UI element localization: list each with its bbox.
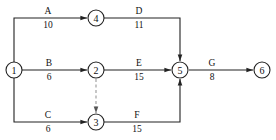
activity-F-name: F: [134, 110, 139, 120]
node-4: 4: [88, 10, 104, 26]
node-2-label: 2: [94, 65, 99, 76]
activity-D-name: D: [136, 6, 143, 16]
activity-C-duration: 6: [46, 124, 51, 134]
node-1-label: 1: [12, 65, 17, 76]
activity-A-name: A: [45, 6, 52, 16]
activity-E-name: E: [136, 58, 142, 68]
activity-A-duration: 10: [43, 20, 53, 30]
node-3-label: 3: [94, 117, 99, 128]
node-3: 3: [88, 114, 104, 130]
node-2: 2: [88, 62, 104, 78]
activity-B-duration: 6: [47, 72, 52, 82]
node-4-label: 4: [94, 13, 99, 24]
activity-F-duration: 15: [132, 124, 142, 134]
activity-D-duration: 11: [134, 20, 143, 30]
activity-G-duration: 8: [210, 72, 215, 82]
edges: [14, 18, 253, 122]
edge-F: [104, 79, 180, 122]
activity-G-name: G: [209, 58, 216, 68]
network-diagram: A 10 B 6 C 6 D 11 E 15 F 15 G 8 1 2 3 4: [0, 0, 276, 140]
node-5: 5: [172, 62, 188, 78]
node-6-label: 6: [260, 65, 265, 76]
node-6: 6: [254, 62, 270, 78]
activity-C-name: C: [45, 110, 51, 120]
node-5-label: 5: [178, 65, 183, 76]
activity-E-duration: 15: [134, 72, 144, 82]
node-1: 1: [6, 62, 22, 78]
activity-B-name: B: [46, 58, 52, 68]
